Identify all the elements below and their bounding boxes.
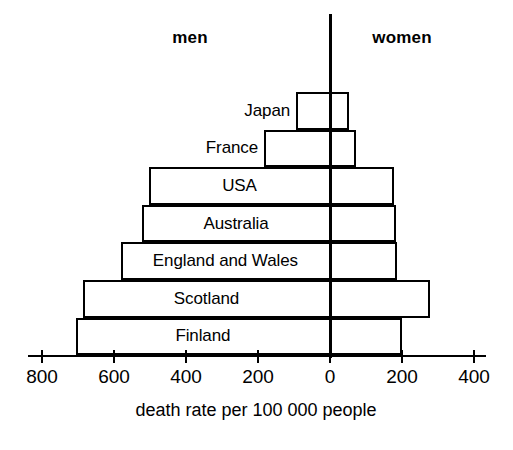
x-tick-600-1 <box>113 350 115 363</box>
x-tick-0-4 <box>329 350 331 363</box>
bar-label-australia: Australia <box>203 214 268 234</box>
x-tick-label-600-1: 600 <box>98 366 130 388</box>
bar-label-finland: Finland <box>175 326 230 346</box>
bar-label-japan: Japan <box>244 101 290 121</box>
bar-france <box>264 130 356 168</box>
bar-usa <box>149 167 394 205</box>
population-pyramid-chart: men women JapanFranceUSAAustraliaEngland… <box>0 0 513 450</box>
x-tick-800-0 <box>41 350 43 363</box>
bar-australia <box>142 205 396 243</box>
bar-label-usa: USA <box>222 176 257 196</box>
x-tick-label-200-3: 200 <box>242 366 274 388</box>
x-tick-200-5 <box>401 350 403 363</box>
x-tick-label-400-2: 400 <box>170 366 202 388</box>
bar-finland <box>76 318 402 356</box>
x-tick-label-800-0: 800 <box>26 366 58 388</box>
legend-label-men: men <box>172 28 208 48</box>
x-tick-label-200-5: 200 <box>386 366 418 388</box>
x-tick-400-2 <box>185 350 187 363</box>
x-axis-title: death rate per 100 000 people <box>135 400 376 421</box>
bar-label-france: France <box>206 138 258 158</box>
bar-scotland <box>83 280 430 318</box>
x-tick-400-6 <box>473 350 475 363</box>
bar-label-scotland: Scotland <box>174 289 239 309</box>
x-tick-label-400-6: 400 <box>458 366 490 388</box>
legend-label-women: women <box>372 28 432 48</box>
bar-japan <box>296 92 349 130</box>
x-tick-200-3 <box>257 350 259 363</box>
x-tick-label-0-4: 0 <box>325 366 336 388</box>
bar-label-england-and-wales: England and Wales <box>153 251 298 271</box>
